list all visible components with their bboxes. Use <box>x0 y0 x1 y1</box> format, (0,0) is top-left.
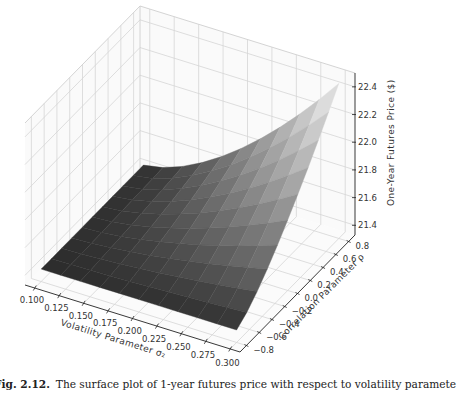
z-tick-label: 21.8 <box>358 165 377 175</box>
z-axis-label: One-Year Futures Price ($) <box>386 79 396 206</box>
x-tick-label: 0.100 <box>20 295 44 305</box>
z-tick-label: 21.4 <box>358 220 377 230</box>
x-tick-label: 0.250 <box>166 342 190 352</box>
x-tick-label: 0.275 <box>191 350 215 360</box>
z-tick-label: 22.2 <box>358 110 377 120</box>
z-tick-label: 22.4 <box>358 82 377 92</box>
z-tick-label: 22.0 <box>358 137 377 147</box>
z-tick-label: 21.6 <box>358 193 377 203</box>
caption-label: Fig. 2.12. <box>0 378 50 390</box>
caption-text: The surface plot of 1-year futures price… <box>56 378 456 390</box>
x-tick-label: 0.150 <box>69 311 93 321</box>
x-tick-label: 0.300 <box>215 358 239 368</box>
figure-caption: Fig. 2.12.The surface plot of 1-year fut… <box>0 378 456 390</box>
z-axis-ticks: 21.421.621.822.022.222.4 <box>352 82 377 230</box>
surface-plot-3d: 0.1000.1250.1500.1750.2000.2250.2500.275… <box>0 0 409 372</box>
x-tick-label: 0.175 <box>93 318 117 328</box>
y-tick-label: 0.8 <box>356 241 370 251</box>
x-tick-label: 0.125 <box>44 303 68 313</box>
y-tick-label: −0.8 <box>253 345 274 355</box>
